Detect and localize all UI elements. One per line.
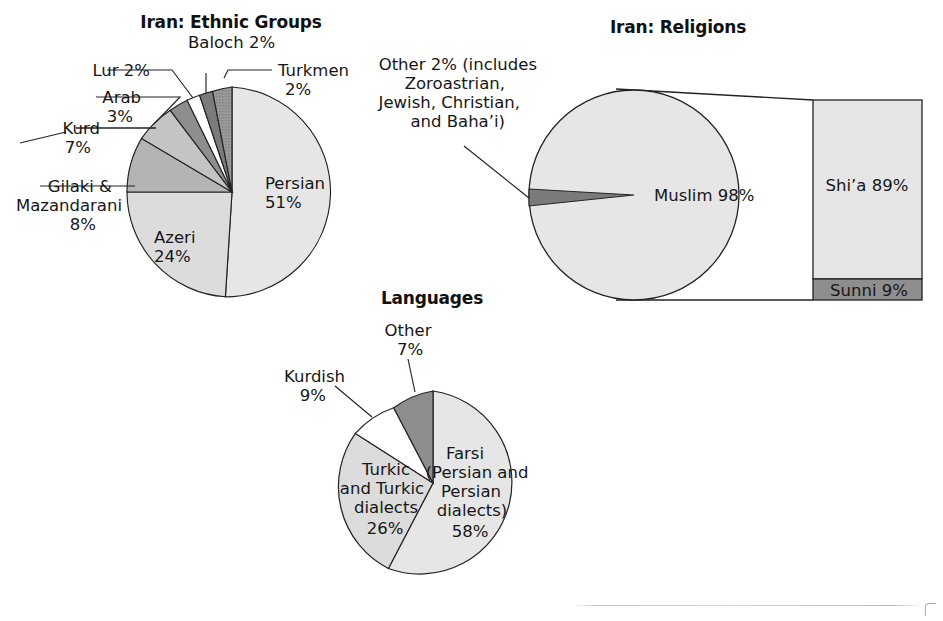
page-edge-artifact (574, 605, 922, 606)
ethnic-label-persian-pct: 51% (265, 193, 302, 212)
ethnic-label-kurd-name: Kurd (63, 119, 100, 138)
languages-label-other-pct: 7% (397, 340, 423, 359)
languages-label-turkic-line2: and Turkic (340, 479, 424, 498)
leader-kurd-c (20, 132, 66, 143)
languages-label-other-name: Other (385, 321, 432, 340)
languages-label-farsi-line4: dialects) (437, 501, 507, 520)
ethnic-label-arab-name: Arab (102, 88, 141, 107)
languages-label-farsi-pct: 58% (452, 522, 489, 541)
chart-religions: Iran: Religions Muslim 98% Other 2% (inc… (378, 17, 922, 300)
languages-label-farsi-line2: (Persian and (426, 463, 529, 482)
chart-languages: Languages Other 7% Kurdish 9% Farsi (Per… (284, 288, 528, 574)
charts-canvas: Iran: Ethnic Groups (0, 0, 943, 621)
religions-chart-title: Iran: Religions (610, 17, 746, 37)
ethnic-label-kurd-pct: 7% (65, 138, 91, 157)
languages-label-turkic-line1: Turkic (361, 460, 410, 479)
religions-label-muslim: Muslim 98% (654, 186, 754, 205)
religions-label-other-line1: Other 2% (includes (379, 55, 537, 74)
ethnic-label-gilaki-line1: Gilaki & (48, 177, 112, 196)
religions-label-sunni: Sunni 9% (830, 281, 908, 300)
ethnic-label-arab-pct: 3% (107, 107, 133, 126)
ethnic-label-gilaki-pct: 8% (70, 215, 96, 234)
leader-languages-kurdish (335, 386, 372, 417)
religions-label-other-line3: Jewish, Christian, (378, 93, 520, 112)
religions-label-shia: Shi’a 89% (826, 176, 909, 195)
leader-turkmen (224, 70, 272, 78)
religions-label-other-line4: and Baha’i) (410, 112, 505, 131)
ethnic-label-azeri-name: Azeri (154, 228, 195, 247)
languages-label-turkic-line3: dialects (354, 498, 418, 517)
ethnic-label-turkmen-name: Turkmen (277, 61, 349, 80)
leader-languages-other (408, 359, 415, 392)
languages-label-farsi-line3: Persian (441, 482, 501, 501)
languages-label-kurdish-pct: 9% (300, 386, 326, 405)
ethnic-label-gilaki-line2: Mazandarani (16, 196, 122, 215)
page-corner-artifact (925, 603, 936, 616)
languages-label-farsi-line1: Farsi (446, 444, 484, 463)
ethnic-label-lur: Lur 2% (92, 61, 150, 80)
languages-label-turkic-pct: 26% (367, 519, 404, 538)
ethnic-label-baloch: Baloch 2% (188, 33, 275, 52)
ethnic-label-persian-name: Persian (265, 174, 325, 193)
chart-ethnic-groups: Iran: Ethnic Groups (16, 12, 349, 297)
leader-religions-other (464, 146, 529, 198)
languages-label-kurdish-name: Kurdish (284, 367, 345, 386)
ethnic-chart-title: Iran: Ethnic Groups (140, 12, 321, 32)
ethnic-label-azeri-pct: 24% (154, 247, 191, 266)
religions-label-other-line2: Zoroastrian, (405, 74, 505, 93)
languages-chart-title: Languages (381, 288, 483, 308)
infographic-stage: Iran: Ethnic Groups (0, 0, 943, 621)
ethnic-label-turkmen-pct: 2% (285, 80, 311, 99)
